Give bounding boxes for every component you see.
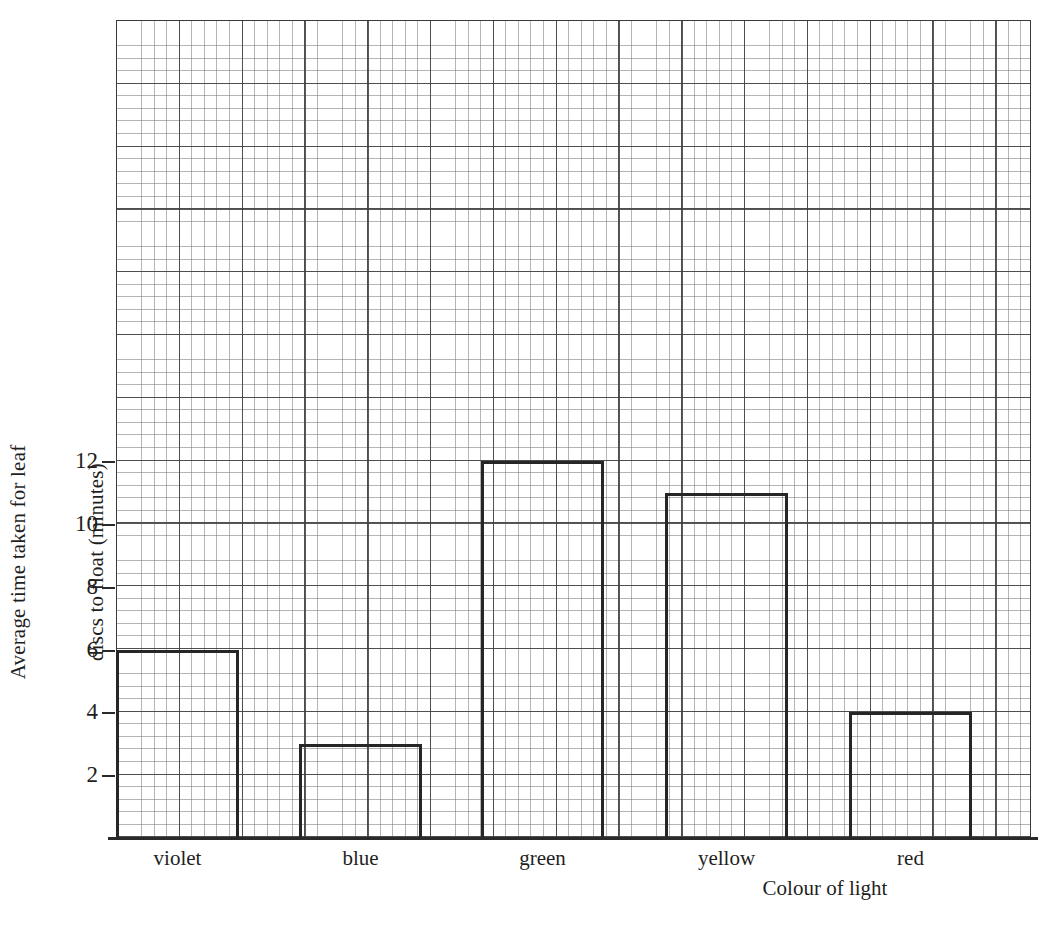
y-axis-title-line-1: Average time taken for leaf xyxy=(5,272,31,852)
bar-chart: Average time taken for leaf discs to flo… xyxy=(0,0,1056,936)
y-tick-mark xyxy=(102,524,115,526)
y-tick-mark xyxy=(102,461,115,463)
bar-violet xyxy=(116,650,239,838)
y-tick-label: 2 xyxy=(52,763,98,786)
x-tick-label-blue: blue xyxy=(291,845,431,871)
x-tick-label-green: green xyxy=(473,845,613,871)
bar-red xyxy=(849,712,972,838)
y-tick-mark xyxy=(102,775,115,777)
x-axis-title: Colour of light xyxy=(700,875,950,901)
y-tick-mark xyxy=(102,712,115,714)
x-tick-label-yellow: yellow xyxy=(657,845,797,871)
y-tick-mark xyxy=(102,587,115,589)
y-tick-label: 12 xyxy=(52,449,98,472)
y-tick-label: 4 xyxy=(52,700,98,723)
x-tick-label-violet: violet xyxy=(108,845,248,871)
x-tick-label-red: red xyxy=(841,845,981,871)
x-axis-line xyxy=(108,837,1038,840)
y-tick-label: 8 xyxy=(52,575,98,598)
bar-yellow xyxy=(665,493,788,838)
y-tick-mark xyxy=(102,650,115,652)
y-tick-label: 10 xyxy=(52,512,98,535)
bar-blue xyxy=(299,744,422,838)
y-tick-label: 6 xyxy=(52,638,98,661)
bar-green xyxy=(481,461,604,838)
